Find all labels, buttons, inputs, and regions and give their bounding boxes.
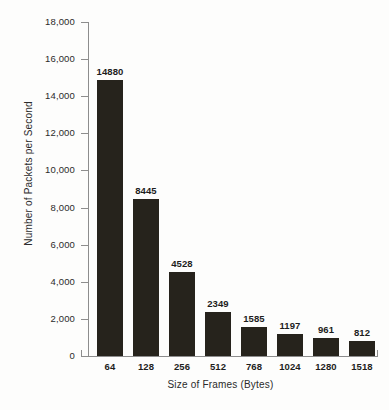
- bar-value-label: 2349: [193, 299, 243, 309]
- y-axis-tick-label: 0: [70, 351, 75, 361]
- bar-value-label: 4528: [157, 259, 207, 269]
- y-axis-tick: [81, 319, 89, 320]
- y-axis-tick-label: 2,000: [50, 314, 75, 324]
- y-axis-title: Number of Packets per Second: [23, 64, 34, 284]
- bar-chart-figure: 02,0004,0006,0008,00010,00012,00014,0001…: [0, 0, 389, 410]
- bar-value-label: 8445: [121, 186, 171, 196]
- y-axis-tick-label: 16,000: [45, 54, 75, 64]
- y-axis-tick: [81, 96, 89, 97]
- y-axis-tick: [81, 245, 89, 246]
- y-axis-tick-label: 6,000: [50, 240, 75, 250]
- bar-value-label: 14880: [85, 67, 135, 77]
- y-axis-tick-label: 10,000: [45, 165, 75, 175]
- bar: [241, 327, 267, 356]
- bar-value-label: 812: [337, 328, 387, 338]
- y-axis-tick-label: 8,000: [50, 203, 75, 213]
- y-axis-tick: [81, 356, 89, 357]
- y-axis-tick: [81, 22, 89, 23]
- bar: [133, 199, 159, 356]
- y-axis-tick: [81, 170, 89, 171]
- x-axis-title: Size of Frames (Bytes): [0, 379, 389, 390]
- bar: [313, 338, 339, 356]
- y-axis-tick: [81, 282, 89, 283]
- bar: [277, 334, 303, 356]
- x-axis-right-cap: [377, 350, 378, 357]
- bar: [349, 341, 375, 356]
- y-axis-tick: [81, 59, 89, 60]
- y-axis-tick: [81, 133, 89, 134]
- bar: [169, 272, 195, 356]
- bar: [97, 80, 123, 356]
- y-axis-tick-label: 18,000: [45, 17, 75, 27]
- y-axis-tick-label: 4,000: [50, 277, 75, 287]
- y-axis-tick-label: 12,000: [45, 128, 75, 138]
- y-axis-tick-label: 14,000: [45, 91, 75, 101]
- bar: [205, 312, 231, 356]
- y-axis-tick: [81, 208, 89, 209]
- x-axis-tick-label: 1518: [337, 361, 387, 372]
- x-axis-line: [81, 356, 378, 357]
